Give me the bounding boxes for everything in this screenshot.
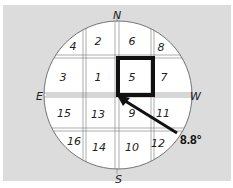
angle-label: 8.8° — [180, 133, 202, 147]
cell-label-15: 15 — [57, 107, 71, 120]
cell-label-3: 3 — [60, 71, 67, 84]
cell-label-7: 7 — [161, 71, 168, 84]
cell-label-2: 2 — [95, 35, 102, 48]
compass-south: S — [115, 173, 122, 186]
cell-label-13: 13 — [91, 108, 105, 121]
cell-label-1: 1 — [95, 71, 102, 84]
compass-north: N — [113, 9, 121, 22]
cell-label-10: 10 — [125, 141, 139, 154]
cell-label-4: 4 — [70, 40, 77, 53]
cell-label-5: 5 — [129, 71, 136, 84]
compass-grid-diagram: N S E W 42683157151391116141012 8.8° — [0, 0, 233, 188]
cell-label-12: 12 — [151, 137, 165, 150]
compass-west: W — [190, 90, 202, 103]
cell-label-11: 11 — [156, 107, 170, 120]
cell-label-8: 8 — [158, 41, 165, 54]
cell-label-14: 14 — [92, 141, 106, 154]
cell-label-16: 16 — [67, 135, 81, 148]
cell-label-6: 6 — [129, 35, 136, 48]
cell-label-9: 9 — [129, 107, 136, 120]
compass-east: E — [36, 90, 43, 103]
